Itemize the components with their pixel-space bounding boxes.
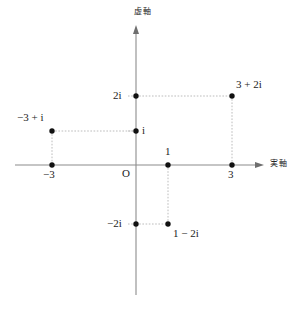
real-axis-arrow-icon — [255, 162, 264, 168]
point-3-plus-2i — [229, 93, 234, 98]
complex-plane-canvas — [0, 0, 305, 313]
point-minus3-plus-i — [49, 128, 54, 133]
imaginary-axis-label: 虚軸 — [134, 8, 151, 16]
tick-label-minus-3: −3 — [43, 169, 55, 180]
complex-plane-figure — [0, 0, 305, 313]
imaginary-axis-arrow-icon — [133, 25, 139, 34]
point-i — [133, 128, 138, 133]
tick-label-3: 3 — [228, 169, 234, 180]
imaginary-tick-marks — [128, 96, 136, 224]
connector-lines — [52, 96, 232, 224]
point-label-1: 1 — [165, 146, 171, 157]
imaginary-axis — [133, 25, 139, 295]
tick-label-2i: 2i — [113, 90, 122, 101]
point-1 — [165, 162, 170, 167]
point-minus-2i — [133, 221, 138, 226]
point-label-minus3-plus-i: −3 + i — [17, 112, 43, 123]
point-1-minus-2i — [165, 221, 170, 226]
origin-label: O — [122, 168, 130, 179]
tick-label-i: i — [142, 125, 145, 136]
plotted-points — [49, 93, 234, 226]
real-axis-label: 実軸 — [270, 160, 287, 168]
point-label-3-plus-2i: 3 + 2i — [236, 79, 262, 90]
point-minus3 — [49, 162, 54, 167]
tick-label-minus-2i: −2i — [107, 218, 122, 229]
point-3 — [229, 162, 234, 167]
point-2i — [133, 93, 138, 98]
point-label-1-minus-2i: 1 − 2i — [173, 228, 199, 239]
